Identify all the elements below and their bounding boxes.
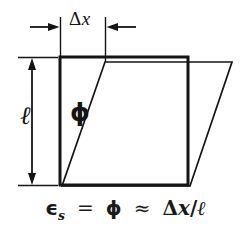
delta-x-arrowhead-left xyxy=(48,23,60,31)
delta-x-arrowhead-right xyxy=(107,23,119,31)
shear-strain-equation: ϵs = ϕ ≈ Δx/ℓ xyxy=(0,198,251,222)
slash-symbol: / xyxy=(190,198,197,218)
epsilon-symbol: ϵ xyxy=(45,198,58,218)
delta-symbol: Δ xyxy=(69,8,82,29)
x-variable-eq: x xyxy=(178,198,190,218)
phi-angle-label: ϕ xyxy=(70,100,90,125)
ell-label: ℓ xyxy=(20,103,30,128)
epsilon-subscript: s xyxy=(58,208,65,223)
shear-strain-figure: Δx ℓ ϕ ϵs = ϕ ≈ Δx/ℓ xyxy=(0,0,251,243)
approx-sign: ≈ xyxy=(134,198,151,218)
x-variable: x xyxy=(82,8,91,29)
phi-symbol: ϕ xyxy=(106,198,122,218)
equals-sign: = xyxy=(77,198,94,218)
ell-arrowhead-top xyxy=(28,58,36,70)
delta-symbol-eq: Δ xyxy=(162,198,178,218)
ell-arrowhead-bottom xyxy=(28,173,36,185)
ell-symbol-eq: ℓ xyxy=(197,198,206,218)
delta-x-label: Δx xyxy=(69,9,91,28)
